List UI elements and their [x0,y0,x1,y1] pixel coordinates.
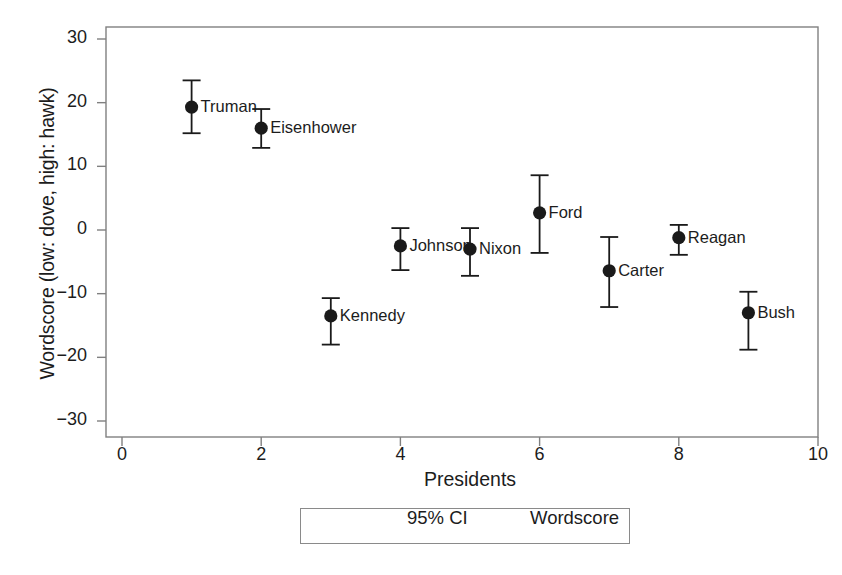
y-tick-label: −30 [32,409,87,430]
wordscore-marker [603,264,616,277]
chart-figure: Wordscore (low: dove, high: hawk) Presid… [0,0,842,575]
y-tick-label: −10 [32,282,87,303]
wordscore-marker [672,231,685,244]
y-axis-ticks [97,39,106,421]
x-tick-label: 2 [231,444,291,465]
point-label-carter: Carter [618,261,664,280]
legend-label-ci: 95% CI [407,507,468,529]
point-label-ford: Ford [549,203,583,222]
y-tick-label: 0 [32,218,87,239]
point-label-reagan: Reagan [688,228,746,247]
y-tick-label: 20 [32,91,87,112]
x-tick-label: 0 [92,444,152,465]
x-tick-label: 4 [370,444,430,465]
x-tick-label: 6 [510,444,570,465]
point-label-eisenhower: Eisenhower [270,118,356,137]
point-label-bush: Bush [757,303,795,322]
y-tick-label: 10 [32,154,87,175]
point-label-nixon: Nixon [479,239,521,258]
point-label-johnson: Johnson [409,236,471,255]
legend-label-wordscore: Wordscore [530,507,619,529]
wordscore-marker [394,239,407,252]
x-tick-label: 10 [788,444,842,465]
x-tick-label: 8 [649,444,709,465]
point-label-truman: Truman [201,97,257,116]
wordscore-marker [742,306,755,319]
wordscore-marker [324,309,337,322]
point-label-kennedy: Kennedy [340,306,405,325]
wordscore-marker [255,122,268,135]
wordscore-marker [533,206,546,219]
x-axis-ticks [122,437,818,446]
y-tick-label: 30 [32,27,87,48]
plot-area [0,0,842,575]
y-tick-label: −20 [32,345,87,366]
wordscore-marker [185,101,198,114]
